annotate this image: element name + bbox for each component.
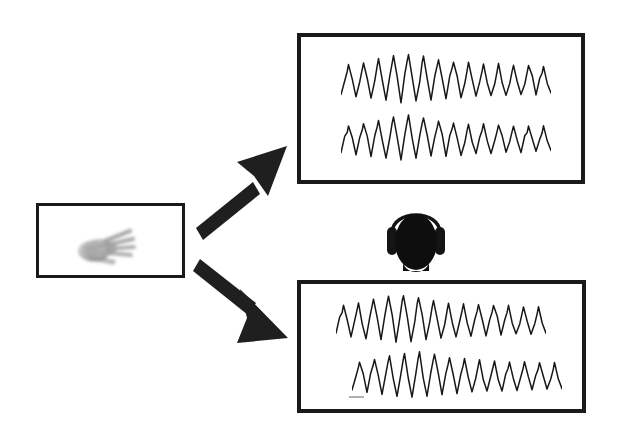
figure-root [0,0,622,447]
hand-image [67,218,151,270]
head-with-headphones-icon [383,197,449,277]
trace-bottom-1 [336,292,546,352]
trace-bottom-2 [352,349,562,407]
eeg-panel-top [297,33,585,184]
arrow-to-bottom-panel [193,259,288,343]
arrow-to-top-panel [196,146,287,240]
time-scalebar [349,396,364,398]
trace-top-2 [341,112,551,170]
eeg-panel-bottom [297,280,586,413]
trace-top-1 [341,51,551,113]
stimulus-panel [36,203,185,278]
